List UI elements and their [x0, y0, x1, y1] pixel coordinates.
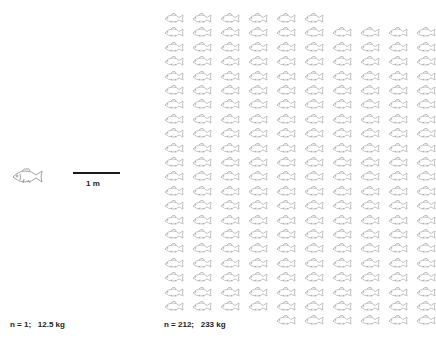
fish-icon	[331, 229, 353, 239]
group-caption: n = 212; 233 kg	[164, 320, 226, 329]
fish-icon	[219, 272, 241, 282]
fish-icon	[219, 215, 241, 225]
fish-icon	[163, 243, 185, 253]
fish-icon	[415, 258, 436, 268]
fish-icon	[387, 258, 409, 268]
fish-icon	[247, 258, 269, 268]
fish-icon	[359, 315, 381, 325]
fish-icon	[359, 215, 381, 225]
fish-icon	[191, 56, 213, 66]
scale-label: 1 m	[86, 179, 100, 188]
fish-icon	[303, 186, 325, 196]
fish-icon	[219, 258, 241, 268]
fish-icon	[415, 157, 436, 167]
fish-icon	[247, 287, 269, 297]
fish-icon	[415, 114, 436, 124]
fish-icon	[331, 42, 353, 52]
fish-icon	[331, 128, 353, 138]
fish-icon	[275, 229, 297, 239]
fish-icon	[247, 56, 269, 66]
fish-icon	[275, 157, 297, 167]
fish-icon	[247, 215, 269, 225]
fish-icon	[163, 71, 185, 81]
fish-icon	[219, 128, 241, 138]
fish-icon	[191, 200, 213, 210]
fish-icon	[303, 229, 325, 239]
fish-icon	[219, 114, 241, 124]
fish-icon	[219, 42, 241, 52]
fish-icon	[163, 157, 185, 167]
fish-icon	[191, 27, 213, 37]
fish-icon	[191, 114, 213, 124]
fish-icon	[247, 42, 269, 52]
fish-icon	[359, 186, 381, 196]
fish-icon	[303, 114, 325, 124]
fish-icon	[331, 143, 353, 153]
fish-icon	[275, 258, 297, 268]
fish-icon	[275, 114, 297, 124]
fish-icon	[359, 157, 381, 167]
fish-icon	[359, 200, 381, 210]
fish-icon	[387, 229, 409, 239]
fish-icon	[303, 143, 325, 153]
fish-icon	[415, 287, 436, 297]
fish-icon	[387, 215, 409, 225]
fish-icon	[275, 143, 297, 153]
fish-icon	[247, 85, 269, 95]
fish-icon	[275, 287, 297, 297]
fish-icon	[331, 287, 353, 297]
fish-icon	[331, 272, 353, 282]
fish-icon	[415, 27, 436, 37]
fish-icon	[191, 243, 213, 253]
fish-icon	[415, 229, 436, 239]
fish-icon	[415, 85, 436, 95]
fish-icon	[191, 143, 213, 153]
fish-icon	[191, 215, 213, 225]
fish-icon	[275, 56, 297, 66]
fish-icon	[359, 114, 381, 124]
fish-icon	[415, 128, 436, 138]
fish-icon	[359, 99, 381, 109]
fish-icon	[163, 258, 185, 268]
fish-icon	[247, 27, 269, 37]
fish-icon	[191, 99, 213, 109]
fish-icon	[247, 143, 269, 153]
fish-icon	[303, 99, 325, 109]
fish-icon	[275, 13, 297, 23]
fish-icon	[191, 258, 213, 268]
fish-icon	[163, 13, 185, 23]
fish-icon	[163, 171, 185, 181]
fish-icon	[247, 114, 269, 124]
fish-icon	[303, 13, 325, 23]
fish-icon	[331, 171, 353, 181]
fish-icon	[275, 85, 297, 95]
fish-icon	[415, 42, 436, 52]
fish-icon	[247, 128, 269, 138]
fish-icon	[163, 114, 185, 124]
fish-icon	[247, 71, 269, 81]
fish-icon	[191, 186, 213, 196]
fish-icon	[163, 301, 185, 311]
fish-icon	[415, 171, 436, 181]
fish-icon	[191, 157, 213, 167]
fish-icon	[303, 315, 325, 325]
fish-icon	[219, 143, 241, 153]
fish-icon	[303, 272, 325, 282]
fish-icon	[359, 128, 381, 138]
fish-icon	[219, 301, 241, 311]
fish-icon	[331, 71, 353, 81]
fish-icon	[191, 85, 213, 95]
fish-icon	[275, 243, 297, 253]
fish-icon	[191, 301, 213, 311]
fish-icon	[331, 56, 353, 66]
fish-icon	[10, 168, 44, 184]
fish-icon	[415, 272, 436, 282]
fish-icon	[415, 186, 436, 196]
fish-icon	[191, 272, 213, 282]
fish-icon	[275, 186, 297, 196]
fish-icon	[275, 128, 297, 138]
fish-icon	[247, 99, 269, 109]
fish-icon	[219, 186, 241, 196]
fish-icon	[219, 99, 241, 109]
fish-icon	[163, 143, 185, 153]
